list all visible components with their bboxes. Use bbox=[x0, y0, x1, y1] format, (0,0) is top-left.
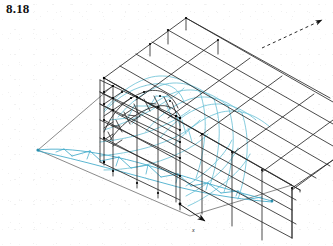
figure-drawing-canvas: x bbox=[0, 0, 333, 246]
figure-root: 8.18 bbox=[0, 0, 333, 246]
building-wireframe bbox=[100, 18, 333, 240]
lower-bay-verticals bbox=[113, 171, 180, 210]
x-axis-label: x bbox=[191, 227, 195, 233]
lens-truss-end-nodes bbox=[36, 148, 273, 202]
side-wall-grid bbox=[100, 78, 300, 240]
lens-arch-truss bbox=[38, 149, 272, 202]
rear-end-frame bbox=[292, 160, 333, 238]
y-axis-arrow bbox=[262, 20, 322, 48]
x-axis-arrow bbox=[181, 205, 205, 221]
